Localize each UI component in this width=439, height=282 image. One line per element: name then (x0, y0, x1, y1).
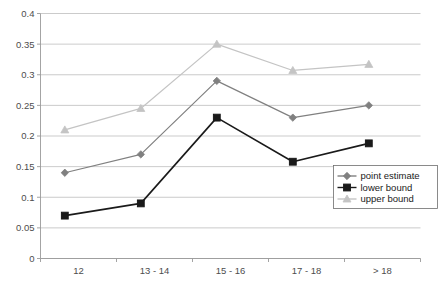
x-axis-tick-label: 13 - 14 (140, 265, 170, 276)
y-tick-labels: 00.050.10.150.20.250.30.350.4 (16, 8, 35, 264)
y-axis-tick-label: 0.05 (16, 222, 35, 233)
y-axis (37, 14, 41, 259)
y-axis-tick-label: 0.2 (21, 130, 34, 141)
x-axis-tick-label: 15 - 16 (216, 265, 246, 276)
gridlines-group (41, 14, 421, 259)
data-point-marker (213, 114, 220, 121)
data-point-marker (365, 102, 372, 109)
y-axis-tick-label: 0.35 (16, 39, 35, 50)
x-tick-labels: 1213 - 1415 - 1617 - 18> 18 (73, 265, 392, 276)
y-axis-tick-label: 0.3 (21, 69, 34, 80)
legend-label: point estimate (361, 170, 420, 181)
data-point-marker (365, 60, 373, 67)
y-axis-tick-label: 0.1 (21, 192, 34, 203)
legend-label: upper bound (361, 193, 414, 204)
x-axis-tick-label: > 18 (373, 265, 392, 276)
legend-label: lower bound (361, 182, 413, 193)
series-group (61, 40, 373, 219)
data-point-marker (61, 169, 68, 176)
series-line (65, 81, 369, 173)
line-chart: 00.050.10.150.20.250.30.350.4 1213 - 141… (0, 0, 439, 282)
data-point-marker (289, 114, 296, 121)
data-point-marker (289, 158, 296, 165)
data-point-marker (213, 40, 221, 47)
data-point-marker (365, 140, 372, 147)
data-point-marker (61, 212, 68, 219)
data-point-marker (344, 184, 351, 191)
x-axis-tick-label: 12 (73, 265, 84, 276)
x-axis-tick-label: 17 - 18 (292, 265, 322, 276)
series-point-estimate (61, 77, 372, 176)
y-axis-tick-label: 0.15 (16, 161, 35, 172)
chart-canvas: 00.050.10.150.20.250.30.350.4 1213 - 141… (0, 0, 439, 282)
y-axis-tick-label: 0.4 (21, 8, 34, 19)
y-axis-tick-label: 0 (29, 253, 34, 264)
y-axis-tick-label: 0.25 (16, 100, 35, 111)
x-axis (41, 259, 421, 263)
chart-legend: point estimatelower boundupper bound (334, 166, 438, 209)
data-point-marker (137, 200, 144, 207)
